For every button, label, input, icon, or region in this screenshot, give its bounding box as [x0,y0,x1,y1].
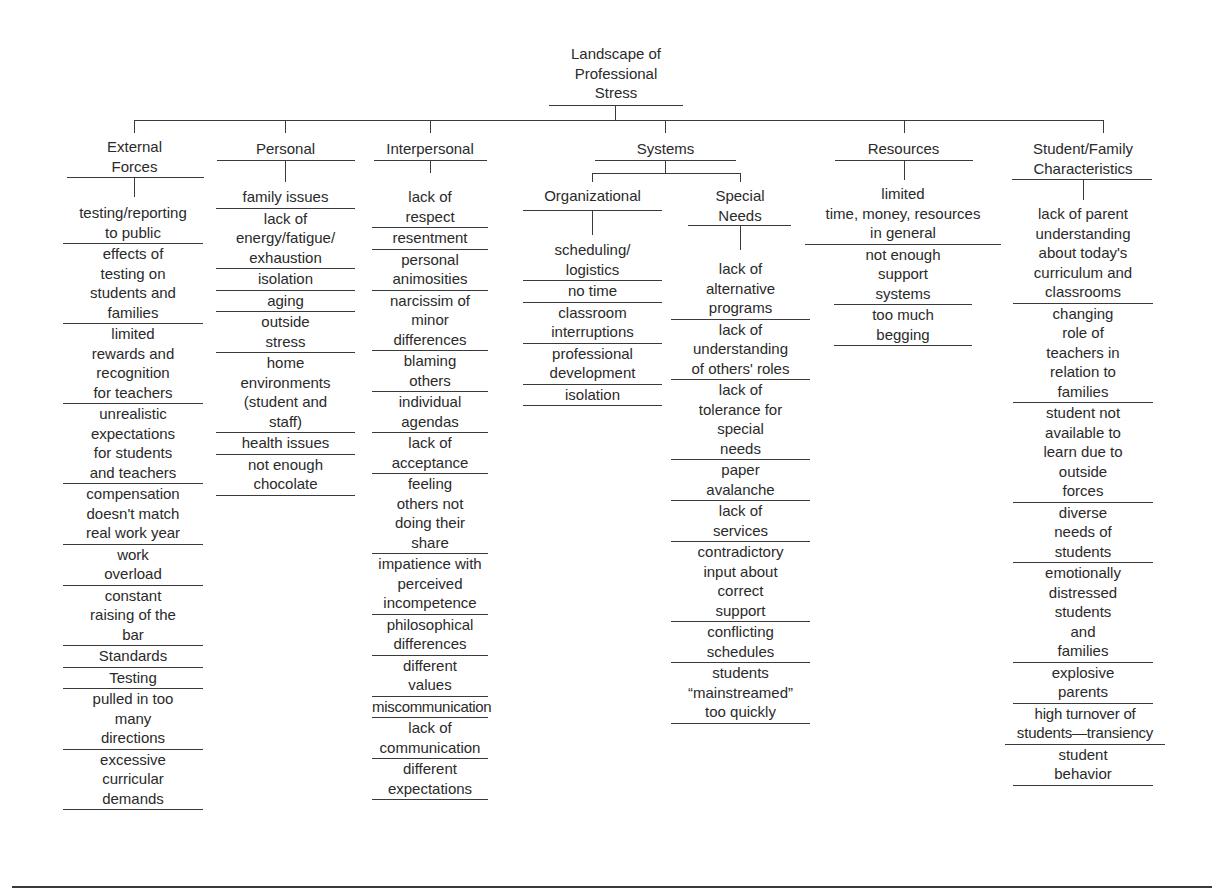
subcategory-special-needs: Special Needs [690,186,790,225]
list-item: resentment [372,228,488,250]
special-needs-stem [740,225,741,250]
list-item: lack of parent understanding about today… [1013,204,1153,304]
list-item: lack of acceptance [372,433,488,474]
student-family-underline [1012,179,1152,180]
systems-stem [665,160,666,173]
subcategory-organizational: Organizational [523,186,662,206]
drop-student-family [1103,120,1104,133]
root-underline [549,105,683,106]
list-item: changing role of teachers in relation to… [1013,304,1153,404]
list-item: paper avalanche [671,460,810,501]
list-item: individual agendas [372,392,488,433]
category-external-forces: External Forces [67,137,202,176]
drop-interpersonal [430,120,431,133]
list-item: too much begging [834,305,972,346]
main-connector-bar [134,120,1104,121]
list-item: impatience with perceived incompetence [372,554,488,615]
category-interpersonal: Interpersonal [366,139,494,159]
resources-stem [904,160,905,180]
list-item: lack of alternative programs [671,259,810,320]
category-resources: Resources [835,139,972,159]
personal-items: family issues lack of energy/fatigue/ ex… [216,187,355,496]
category-student-family: Student/Family Characteristics [1008,139,1158,178]
list-item: Testing [63,668,203,690]
systems-sub-bar [592,173,740,174]
category-systems: Systems [595,139,736,159]
list-item: conflicting schedules [671,622,810,663]
list-item: blaming others [372,351,488,392]
external-underline [67,177,204,178]
list-item: student behavior [1013,745,1153,786]
organizational-items: scheduling/ logistics no time classroom … [523,240,662,406]
list-item: lack of respect [372,187,488,228]
drop-organizational [592,173,593,182]
list-item: isolation [523,385,662,407]
list-item: effects of testing on students and famil… [63,244,203,324]
personal-underline [217,160,355,161]
list-item: students “mainstreamed” too quickly [671,663,810,724]
category-personal: Personal [217,139,354,159]
list-item: not enough support systems [834,245,972,306]
list-item: feeling others not doing their share [372,474,488,554]
drop-resources [904,120,905,133]
list-item: professional development [523,344,662,385]
list-item: emotionally distressed students and fami… [1013,563,1153,663]
list-item: unrealistic expectations for students an… [63,404,203,484]
list-item: limited time, money, resources in genera… [805,184,1001,245]
list-item: classroom interruptions [523,303,662,344]
list-item: lack of services [671,501,810,542]
student-family-stem [1083,179,1084,200]
list-item: compensation doesn't match real work yea… [63,484,203,545]
list-item: lack of understanding of others' roles [671,320,810,381]
list-item: work overload [63,545,203,586]
list-item: not enough chocolate [216,455,355,496]
list-item: limited rewards and recognition for teac… [63,324,203,404]
list-item: lack of energy/fatigue/ exhaustion [216,209,355,270]
special-needs-items: lack of alternative programs lack of und… [671,259,810,724]
interpersonal-stem [430,160,431,173]
page-bottom-rule [12,886,1212,888]
list-item: no time [523,281,662,303]
list-item: scheduling/ logistics [523,240,662,281]
resources-items: limited time, money, resources in genera… [805,184,1001,346]
list-item: constant raising of the bar [63,586,203,647]
list-item: diverse needs of students [1013,503,1153,564]
list-item: family issues [216,187,355,209]
list-item: aging [216,291,355,313]
list-item: narcissim of minor differences [372,291,488,352]
list-item: Standards [63,646,203,668]
drop-external [134,120,135,133]
interpersonal-items: lack of respect resentment personal anim… [372,187,488,800]
root-stem [615,105,616,120]
organizational-stem [592,210,593,235]
list-item: philosophical differences [372,615,488,656]
drop-personal [285,120,286,133]
list-item: high turnover of students—transiency [1005,704,1165,745]
external-items: testing/reporting to public effects of t… [63,203,203,810]
root-title: Landscape of Professional Stress [549,44,683,103]
list-item: different expectations [372,759,488,800]
external-stem [134,177,135,197]
drop-systems [665,120,666,133]
personal-stem [285,160,286,182]
list-item: lack of communication [372,718,488,759]
list-item: explosive parents [1013,663,1153,704]
list-item: personal animosities [372,250,488,291]
list-item: testing/reporting to public [63,203,203,244]
student-family-items: lack of parent understanding about today… [1005,204,1165,786]
list-item: excessive curricular demands [63,750,203,811]
list-item: health issues [216,433,355,455]
list-item: outside stress [216,312,355,353]
list-item: home environments (student and staff) [216,353,355,433]
list-item: lack of tolerance for special needs [671,380,810,460]
drop-special-needs [740,173,741,182]
list-item: pulled in too many directions [63,689,203,750]
list-item: miscommunication [372,697,488,719]
list-item: isolation [216,269,355,291]
list-item: contradictory input about correct suppor… [671,542,810,622]
list-item: student not available to learn due to ou… [1013,403,1153,503]
list-item: different values [372,656,488,697]
